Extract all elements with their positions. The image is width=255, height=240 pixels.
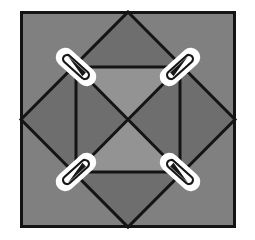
geometric-diagram: [0, 0, 255, 240]
figure-root: [0, 0, 255, 240]
